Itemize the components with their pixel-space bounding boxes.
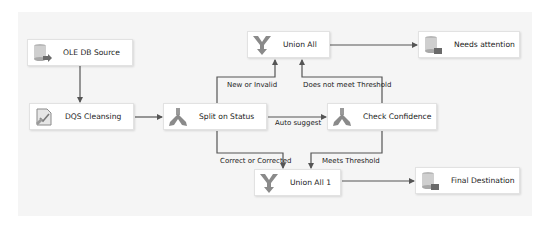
node-check-confidence[interactable]: Check Confidence: [327, 103, 437, 130]
edge-label-does-not-meet-threshold: Does not meet Threshold: [303, 81, 391, 89]
database-destination-icon: [422, 34, 444, 56]
database-destination-icon: [419, 170, 441, 192]
union-all-icon: [251, 34, 273, 56]
edge-label-auto-suggest: Auto suggest: [275, 119, 321, 127]
node-label: Union All 1: [290, 178, 331, 187]
conditional-split-icon: [331, 106, 353, 128]
node-label: Union All: [283, 40, 317, 49]
database-source-icon: [31, 42, 53, 64]
node-dqs-cleansing[interactable]: DQS Cleansing: [29, 103, 134, 130]
node-label: Split on Status: [199, 112, 254, 121]
edge-label-new-or-invalid: New or Invalid: [227, 81, 277, 89]
node-label: OLE DB Source: [63, 48, 120, 57]
node-label: Needs attention: [454, 40, 515, 49]
node-label: Check Confidence: [363, 112, 431, 121]
node-label: DQS Cleansing: [65, 112, 121, 121]
edge-label-meets-threshold: Meets Threshold: [322, 157, 380, 165]
node-needs-attention[interactable]: Needs attention: [418, 31, 520, 58]
node-split-on-status[interactable]: Split on Status: [163, 103, 267, 130]
conditional-split-icon: [167, 106, 189, 128]
node-union-all-1[interactable]: Union All 1: [254, 169, 341, 196]
dqs-cleansing-icon: [33, 106, 55, 128]
node-ole-db-source[interactable]: OLE DB Source: [27, 39, 133, 66]
node-label: Final Destination: [451, 176, 515, 185]
edge-label-correct-or-corrected: Correct or Corrected: [220, 157, 291, 165]
node-union-all[interactable]: Union All: [247, 31, 330, 58]
node-final-destination[interactable]: Final Destination: [415, 167, 520, 194]
union-all-icon: [258, 172, 280, 194]
